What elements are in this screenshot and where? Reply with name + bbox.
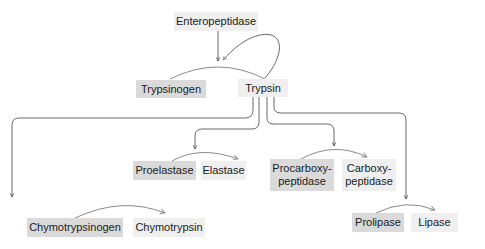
chymotrypsin-label: Chymotrypsin xyxy=(133,218,205,237)
trypsinogen-label: Trypsinogen xyxy=(136,80,206,98)
diagram-connectors xyxy=(0,0,485,249)
trypsinogen-arc xyxy=(170,67,265,79)
trypsin-loop xyxy=(223,34,279,78)
chymotrypsinogen-label: Chymotrypsinogen xyxy=(27,218,123,237)
carboxypeptidase-label: Carboxy- peptidase xyxy=(342,159,396,191)
procarboxypeptidase-label: Procarboxy- peptidase xyxy=(270,159,334,191)
enteropeptidase-label: Enteropeptidase xyxy=(174,12,258,31)
lipase-label: Lipase xyxy=(411,213,458,232)
prolipase-label: Prolipase xyxy=(352,213,404,232)
elastase-label: Elastase xyxy=(201,161,246,180)
proelastase-label: Proelastase xyxy=(133,161,196,180)
trypsin-label: Trypsin xyxy=(238,79,288,97)
